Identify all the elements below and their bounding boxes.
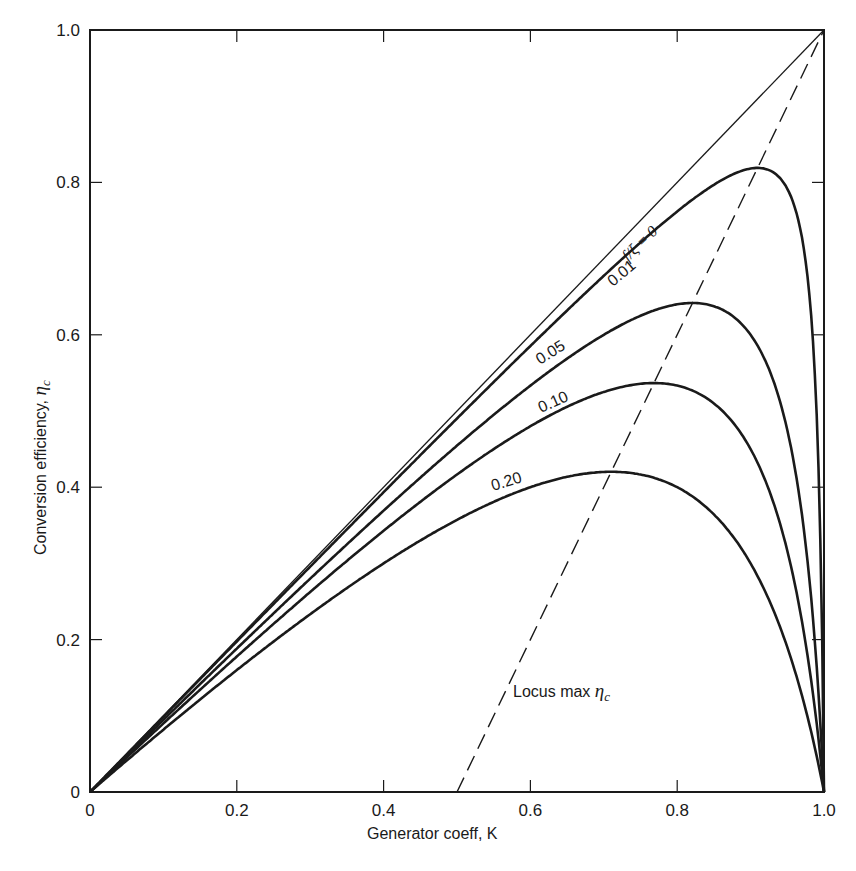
y-tick-label: 0	[71, 783, 80, 802]
label-001: 0.01	[604, 256, 639, 289]
curve-0-20	[90, 472, 824, 792]
x-tick-label: 0.2	[225, 801, 249, 820]
y-tick-label: 1.0	[56, 21, 80, 40]
curve-locus-max-c	[457, 30, 824, 792]
y-tick-label: 0.8	[56, 173, 80, 192]
axis-ticks: 00.20.40.60.81.000.20.40.60.81.0	[56, 21, 835, 820]
x-tick-label: 0.6	[519, 801, 543, 820]
y-tick-label: 0.2	[56, 631, 80, 650]
curve-0-05	[90, 303, 824, 792]
y-axis-label: Conversion efficiency, ηc	[29, 380, 53, 555]
curves	[90, 30, 824, 792]
x-tick-label: 1.0	[812, 801, 836, 820]
x-axis-label: Generator coeff, K	[367, 825, 498, 842]
x-tick-label: 0.4	[372, 801, 396, 820]
x-tick-label: 0.8	[665, 801, 689, 820]
y-tick-label: 0.4	[56, 478, 80, 497]
locus-label: Locus max ηc	[513, 680, 610, 704]
label-010: 0.10	[535, 388, 570, 416]
x-tick-label: 0	[85, 801, 94, 820]
efficiency-chart: 00.20.40.60.81.000.20.40.60.81.0 f/ξ = 0…	[0, 0, 856, 871]
y-tick-label: 0.6	[56, 326, 80, 345]
label-020: 0.20	[489, 468, 524, 493]
